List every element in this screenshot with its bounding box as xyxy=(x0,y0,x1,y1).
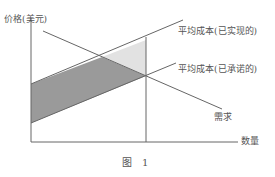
avg-cost-realized-label: 平均成本(已实现的) xyxy=(178,27,257,36)
figure-caption: 图 1 xyxy=(122,158,148,168)
demand-label: 需求 xyxy=(214,113,232,122)
avg-cost-committed-label: 平均成本(已承诺的) xyxy=(178,65,257,74)
y-axis-label: 价格(美元) xyxy=(4,15,47,24)
x-axis-label: 数量 xyxy=(241,137,259,146)
